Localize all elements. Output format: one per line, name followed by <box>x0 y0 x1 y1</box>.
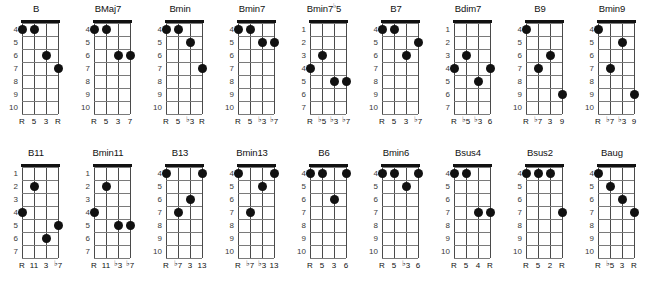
interval-labels: R♭53R <box>598 261 634 273</box>
fret-line <box>598 75 634 76</box>
finger-dot <box>258 38 267 47</box>
fret-line <box>382 23 418 24</box>
fret-line <box>22 245 58 246</box>
interval-labels: R5♭3R <box>166 117 202 129</box>
fretboard <box>166 167 202 258</box>
fret-line <box>238 62 274 63</box>
fret-number: 5 <box>0 222 18 230</box>
fret-number: 3 <box>288 52 306 60</box>
fret-line <box>238 258 274 259</box>
fret-line <box>454 232 490 233</box>
fret-number: 4 <box>360 170 378 178</box>
finger-dot <box>402 51 411 60</box>
finger-dot <box>54 221 63 230</box>
chord-row: B45678910R53RBMaj745678910R537Bmin456789… <box>0 0 648 144</box>
finger-dot <box>234 25 243 34</box>
fret-line <box>238 36 274 37</box>
finger-dot <box>330 195 339 204</box>
chord-name: Baug <box>576 147 648 158</box>
string-line <box>58 167 59 258</box>
string-line <box>130 23 131 114</box>
chord-diagram: B745678910R53♭7 <box>360 0 432 144</box>
finger-dot <box>342 77 351 86</box>
interval-label: R <box>50 117 66 127</box>
fret-line <box>526 101 562 102</box>
fret-number: 6 <box>504 196 522 204</box>
fret-line <box>166 232 202 233</box>
fret-line <box>454 88 490 89</box>
fret-line <box>22 258 58 259</box>
fret-number: 8 <box>576 222 594 230</box>
fret-line <box>454 258 490 259</box>
fret-line <box>454 36 490 37</box>
finger-dot <box>390 169 399 178</box>
fret-number: 8 <box>288 222 306 230</box>
finger-dot <box>30 182 39 191</box>
finger-dot <box>30 25 39 34</box>
chord-row: B111234567R113♭7Bmin111234567R11♭3♭7B134… <box>0 144 648 288</box>
fret-number: 7 <box>504 65 522 73</box>
interval-label: R <box>554 261 570 271</box>
finger-dot <box>414 169 423 178</box>
interval-labels: R113♭7 <box>22 261 58 273</box>
finger-dot <box>270 38 279 47</box>
fret-line <box>166 88 202 89</box>
fret-number: 1 <box>72 170 90 178</box>
fretboard <box>454 23 490 114</box>
finger-dot <box>246 25 255 34</box>
fret-line <box>166 180 202 181</box>
fret-number: 6 <box>144 196 162 204</box>
interval-label: R <box>482 261 498 271</box>
string-line <box>418 23 419 114</box>
fret-number: 8 <box>144 78 162 86</box>
fret-line <box>310 101 346 102</box>
finger-dot <box>522 25 531 34</box>
fret-line <box>22 101 58 102</box>
finger-dot <box>198 169 207 178</box>
interval-label: 9 <box>554 117 570 127</box>
finger-dot <box>114 51 123 60</box>
finger-dot <box>318 169 327 178</box>
fret-line <box>94 180 130 181</box>
fret-line <box>238 49 274 50</box>
fret-line <box>526 167 562 168</box>
interval-labels: R54R <box>454 261 490 273</box>
fret-number: 5 <box>504 39 522 47</box>
fret-number: 6 <box>288 91 306 99</box>
chord-name: Bmin9 <box>576 3 648 14</box>
finger-dot <box>114 221 123 230</box>
fret-line <box>382 101 418 102</box>
fret-line <box>310 167 346 168</box>
fret-number: 7 <box>288 209 306 217</box>
fret-line <box>94 206 130 207</box>
chord-name: Bmin7 <box>216 3 288 14</box>
chord-name: Bmin6 <box>360 147 432 158</box>
fret-number: 7 <box>432 209 450 217</box>
fret-number: 5 <box>504 183 522 191</box>
interval-labels: R11♭3♭7 <box>94 261 130 273</box>
fret-number: 5 <box>432 78 450 86</box>
fret-number: 2 <box>432 39 450 47</box>
finger-dot <box>162 169 171 178</box>
fret-number: 6 <box>144 52 162 60</box>
fret-number: 4 <box>360 26 378 34</box>
finger-dot <box>162 25 171 34</box>
fret-line <box>598 88 634 89</box>
fret-number: 8 <box>72 78 90 86</box>
fret-line <box>238 101 274 102</box>
fret-number: 1 <box>0 170 18 178</box>
interval-label: 13 <box>194 261 210 271</box>
finger-dot <box>630 208 639 217</box>
fret-number: 4 <box>216 170 234 178</box>
fret-number: 7 <box>0 65 18 73</box>
fret-line <box>598 245 634 246</box>
fret-line <box>166 36 202 37</box>
interval-label: 7 <box>122 117 138 127</box>
fret-line <box>310 258 346 259</box>
finger-dot <box>546 51 555 60</box>
fret-number: 2 <box>0 183 18 191</box>
fret-number: 8 <box>144 222 162 230</box>
fret-line <box>526 75 562 76</box>
chord-diagram: Bmin7♭51234567R♭5♭3♭7 <box>288 0 360 144</box>
chord-name: Bdim7 <box>432 3 504 14</box>
